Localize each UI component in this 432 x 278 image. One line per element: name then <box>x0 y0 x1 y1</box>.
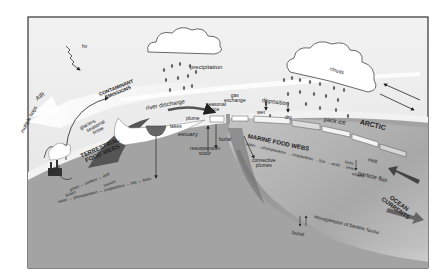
convective-plumes-label: convective plumes <box>252 158 276 168</box>
estuary-label: estuary <box>178 131 198 137</box>
seasonal-ice-label: seasonal ice <box>206 102 226 112</box>
diagram-canvas <box>0 0 432 278</box>
lakes-label: lakes <box>170 124 182 129</box>
wet-deposition-label: wet <box>257 110 265 115</box>
precipitation-label: precipitation <box>190 64 222 70</box>
resuspension-scour-label: resuspension scour <box>190 146 220 156</box>
gas-exchange-label: gas exchange <box>224 93 246 103</box>
plume-label: plume <box>186 116 200 121</box>
estuary-burial-label: burial <box>219 137 231 142</box>
dry-deposition-label: dry <box>285 115 292 120</box>
arctic-contaminant-diagram: hν AIR multiple hops CONTAMINANT EMISSIO… <box>0 0 432 278</box>
sunlight-label: hν <box>82 44 87 49</box>
